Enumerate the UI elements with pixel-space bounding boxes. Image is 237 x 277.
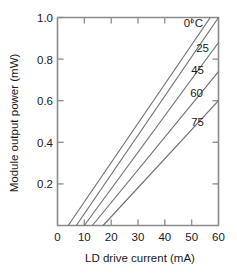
x-tick-label-30: 30 — [132, 231, 145, 243]
y-tick-label-0-2: 0.2 — [37, 178, 53, 190]
figure-container: 1.0 0.8 0.6 0.4 0.2 0 10 20 30 40 50 60 … — [0, 0, 237, 277]
series-label-75: 75 — [191, 116, 204, 128]
x-axis-ticks — [84, 18, 191, 226]
x-tick-label-40: 40 — [158, 231, 171, 243]
series-label-60: 60 — [190, 87, 203, 99]
x-tick-label-20: 20 — [105, 231, 118, 243]
series-label-45: 45 — [191, 64, 204, 76]
series-labels: 0°C 25 45 60 75 — [184, 17, 209, 128]
y-axis-title: Module output power (mW) — [8, 53, 20, 192]
series-label-25: 25 — [196, 42, 209, 54]
x-tick-label-10: 10 — [78, 231, 91, 243]
data-line-0c — [68, 18, 210, 226]
y-tick-label-1-0: 1.0 — [37, 12, 53, 24]
y-tick-label-0-8: 0.8 — [37, 54, 53, 66]
series-label-0c: 0°C — [184, 17, 203, 29]
line-chart: 1.0 0.8 0.6 0.4 0.2 0 10 20 30 40 50 60 … — [0, 0, 237, 277]
y-tick-labels: 1.0 0.8 0.6 0.4 0.2 — [37, 12, 54, 190]
x-tick-label-0: 0 — [54, 231, 60, 243]
x-tick-label-60: 60 — [212, 231, 225, 243]
y-tick-label-0-6: 0.6 — [37, 95, 53, 107]
x-tick-label-50: 50 — [185, 231, 198, 243]
y-tick-label-0-4: 0.4 — [37, 137, 54, 149]
x-tick-labels: 0 10 20 30 40 50 60 — [54, 231, 225, 243]
x-axis-title: LD drive current (mA) — [85, 252, 195, 264]
